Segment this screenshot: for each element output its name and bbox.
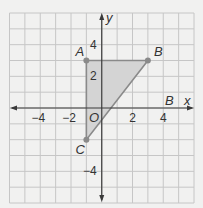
arrow-left-icon	[10, 106, 17, 111]
vertex-point-b	[145, 58, 151, 64]
vertex-label-b: B	[154, 44, 163, 59]
x-tick-label: 2	[129, 111, 136, 125]
extra-label-b: B	[165, 93, 174, 108]
x-tick-label: −2	[62, 111, 76, 125]
vertex-point-a	[83, 58, 89, 64]
vertex-label-a: A	[74, 44, 84, 59]
coordinate-plane: −4−22442−4 ABC y x O B	[0, 0, 203, 208]
arrow-down-icon	[99, 195, 104, 202]
vertex-label-c: C	[75, 142, 85, 157]
origin-label: O	[89, 110, 99, 125]
y-tick-label: 4	[90, 38, 97, 52]
x-axis-label: x	[183, 93, 191, 108]
x-tick-label: 4	[160, 111, 167, 125]
y-tick-label: 2	[90, 69, 97, 83]
y-axis-label: y	[105, 10, 114, 25]
x-tick-label: −4	[31, 111, 45, 125]
arrow-up-icon	[99, 13, 104, 20]
y-tick-label: −4	[83, 164, 97, 178]
